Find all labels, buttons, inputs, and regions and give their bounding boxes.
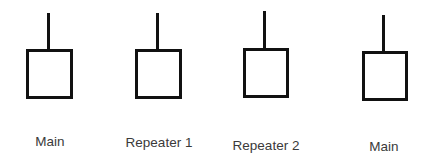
antenna-icon — [263, 11, 266, 49]
node-label: Repeater 2 — [216, 119, 316, 162]
label-line-1: Repeater 1 — [109, 134, 209, 152]
label-line-1: Main — [0, 133, 100, 151]
label-line-1: Main — [334, 138, 422, 156]
node-label: Repeater 1 — [109, 116, 209, 162]
antenna-icon — [47, 13, 50, 50]
repeater-box-icon — [243, 48, 289, 98]
node-label: Main Transmitter — [0, 115, 100, 162]
node-main-transmitter: Main Transmitter — [0, 0, 100, 162]
transmitter-box-icon — [26, 49, 73, 99]
node-label: Main Receiver — [334, 120, 422, 162]
node-repeater-1: Repeater 1 — [109, 0, 209, 162]
antenna-icon — [382, 15, 385, 52]
receiver-box-icon — [362, 51, 408, 101]
node-main-receiver: Main Receiver — [334, 0, 422, 162]
node-repeater-2: Repeater 2 — [216, 0, 316, 162]
antenna-icon — [156, 13, 159, 50]
repeater-box-icon — [135, 49, 182, 99]
label-line-1: Repeater 2 — [216, 137, 316, 155]
